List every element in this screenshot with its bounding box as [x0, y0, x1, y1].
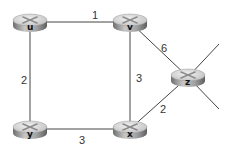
router-x: x	[113, 121, 147, 139]
weight-v-x: 3	[136, 72, 142, 84]
node-label-y: y	[27, 129, 33, 139]
router-z: z	[171, 69, 205, 87]
node-label-u: u	[27, 22, 33, 32]
router-u: u	[13, 14, 47, 32]
node-label-v: v	[127, 22, 133, 32]
weight-u-v: 1	[92, 9, 98, 21]
weight-v-z: 6	[161, 42, 167, 54]
network-diagram: 1 2 3 6 3 2 u v y x z	[0, 0, 230, 145]
weight-u-y: 2	[21, 74, 27, 86]
node-label-z: z	[185, 77, 190, 87]
weight-y-x: 3	[79, 134, 85, 145]
node-label-x: x	[127, 129, 133, 139]
weight-x-z: 2	[160, 103, 166, 115]
router-v: v	[113, 14, 147, 32]
router-y: y	[13, 121, 47, 139]
